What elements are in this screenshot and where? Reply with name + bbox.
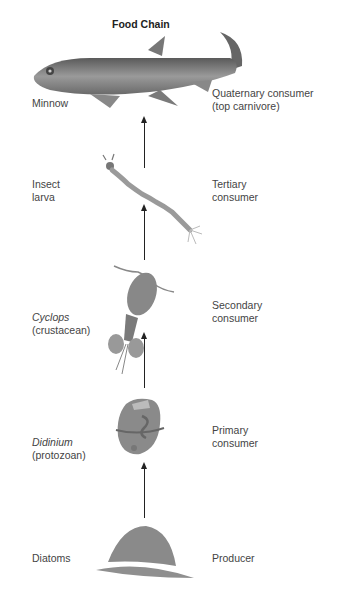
organism-label-cyclops: Cyclops(crustacean) [32, 311, 90, 337]
role-label-secondary: Secondaryconsumer [212, 299, 262, 325]
organism-label-diatoms: Diatoms [32, 552, 71, 565]
arrow-up-icon [144, 468, 145, 518]
cyclops-illustration [92, 262, 202, 382]
organism-label-insect-larva: Insectlarva [32, 178, 60, 204]
insect-larva-illustration [98, 152, 208, 247]
role-label-tertiary: Tertiaryconsumer [212, 178, 258, 204]
arrow-up-icon [144, 210, 145, 260]
role-label-primary: Primaryconsumer [212, 424, 258, 450]
organism-label-minnow: Minnow [32, 97, 68, 110]
organism-label-didinium: Didinium(protozoan) [32, 436, 86, 462]
role-label-producer: Producer [212, 552, 255, 565]
role-label-quaternary: Quaternary consumer(top carnivore) [212, 87, 314, 113]
arrow-up-icon [144, 338, 145, 388]
didinium-illustration [112, 390, 172, 462]
diatoms-illustration [92, 520, 202, 580]
